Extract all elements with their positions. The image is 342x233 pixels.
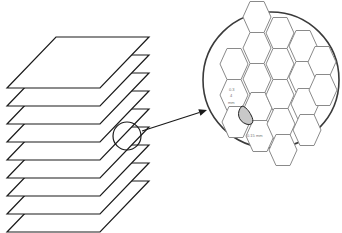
dim-label-horizontal: 0.15 mm xyxy=(247,133,263,138)
arrow-line xyxy=(142,112,199,131)
arrow-head-icon xyxy=(198,109,207,116)
dim-label-unit: mm xyxy=(228,100,235,105)
layer-stack xyxy=(7,37,149,232)
detail-view: 0.3 4 mm 0.15 mm xyxy=(203,2,339,166)
dim-label-1: 0.3 xyxy=(229,87,235,92)
arrow xyxy=(142,109,207,131)
layer-stack-diagram: 0.3 4 mm 0.15 mm xyxy=(0,0,342,233)
